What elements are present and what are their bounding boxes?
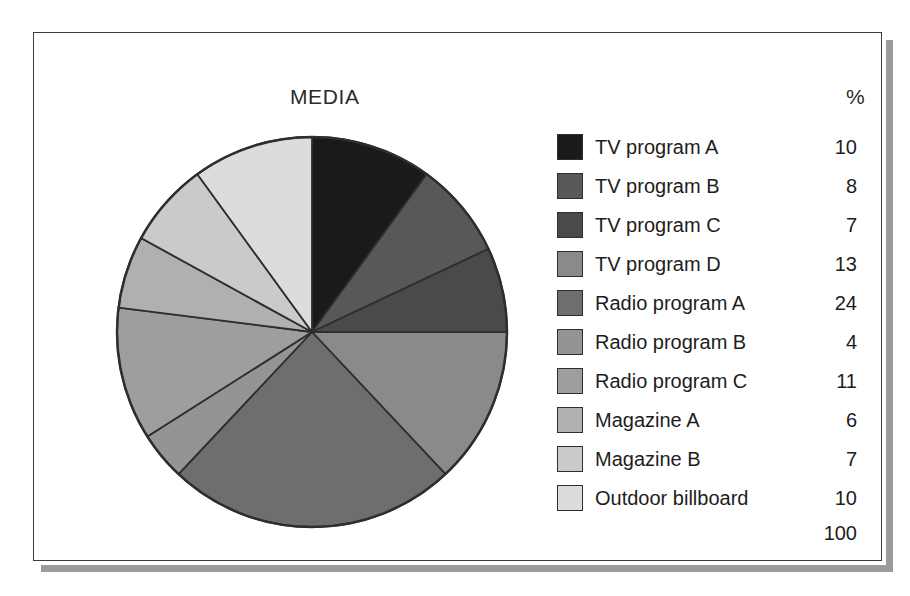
legend-item[interactable]: TV program C7 <box>557 209 897 248</box>
pie-chart <box>114 133 514 533</box>
legend-item-value: 11 <box>809 367 857 395</box>
legend-color-swatch <box>557 329 583 355</box>
legend-item-value: 24 <box>809 289 857 317</box>
legend-item[interactable]: TV program A10 <box>557 131 897 170</box>
legend-item-value: 6 <box>809 406 857 434</box>
legend-color-swatch <box>557 368 583 394</box>
legend-item-value: 7 <box>809 445 857 473</box>
legend-item-value: 10 <box>809 484 857 512</box>
legend-item[interactable]: TV program D13 <box>557 248 897 287</box>
legend-color-swatch <box>557 485 583 511</box>
legend-item[interactable]: Radio program B4 <box>557 326 897 365</box>
pie-slice-group <box>117 137 507 527</box>
percent-column-header: % <box>846 85 865 109</box>
legend-item-label: TV program C <box>595 211 721 239</box>
legend-item[interactable]: TV program B8 <box>557 170 897 209</box>
pie-chart-svg <box>114 133 514 533</box>
legend-item-label: TV program B <box>595 172 719 200</box>
chart-panel: MEDIA % TV program A10TV program B8TV pr… <box>33 32 882 561</box>
legend-item[interactable]: Outdoor billboard10 <box>557 482 897 521</box>
legend-item-value: 10 <box>809 133 857 161</box>
legend-item-value: 13 <box>809 250 857 278</box>
legend-color-swatch <box>557 407 583 433</box>
legend-item-label: Outdoor billboard <box>595 484 748 512</box>
legend-item[interactable]: Radio program C11 <box>557 365 897 404</box>
legend-item-label: Magazine A <box>595 406 700 434</box>
legend-item-label: Magazine B <box>595 445 701 473</box>
legend-color-swatch <box>557 173 583 199</box>
legend-item-label: Radio program A <box>595 289 745 317</box>
legend-color-swatch <box>557 290 583 316</box>
legend-item-label: TV program A <box>595 133 718 161</box>
legend-total-value: 100 <box>557 522 857 545</box>
legend-item-value: 8 <box>809 172 857 200</box>
legend-color-swatch <box>557 446 583 472</box>
legend-item[interactable]: Radio program A24 <box>557 287 897 326</box>
panel-shadow-bottom <box>41 565 893 572</box>
legend-item-label: TV program D <box>595 250 721 278</box>
legend-item-label: Radio program B <box>595 328 746 356</box>
legend-color-swatch <box>557 134 583 160</box>
chart-legend: TV program A10TV program B8TV program C7… <box>557 131 897 521</box>
legend-item-value: 4 <box>809 328 857 356</box>
legend-item[interactable]: Magazine B7 <box>557 443 897 482</box>
legend-color-swatch <box>557 251 583 277</box>
legend-item-value: 7 <box>809 211 857 239</box>
page-title: MEDIA <box>290 85 360 109</box>
legend-item-label: Radio program C <box>595 367 747 395</box>
legend-color-swatch <box>557 212 583 238</box>
legend-item[interactable]: Magazine A6 <box>557 404 897 443</box>
